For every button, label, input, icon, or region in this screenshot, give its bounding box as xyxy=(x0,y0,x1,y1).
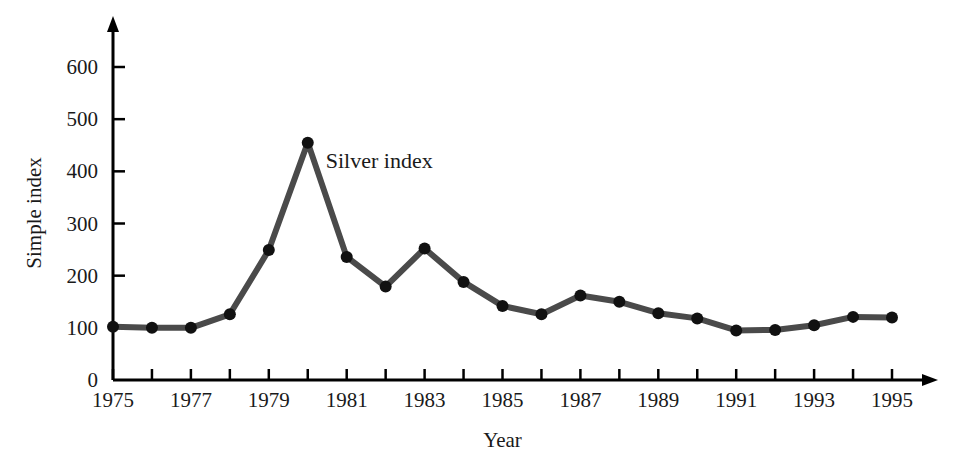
x-axis-title: Year xyxy=(483,428,522,453)
data-point-marker xyxy=(691,312,703,324)
data-point-marker xyxy=(419,243,431,255)
data-point-marker xyxy=(769,324,781,336)
data-point-markers xyxy=(107,137,898,337)
data-point-marker xyxy=(380,281,392,293)
data-point-marker xyxy=(808,319,820,331)
data-point-marker xyxy=(341,251,353,263)
series-annotation-label: Silver index xyxy=(326,148,433,174)
x-tick-label: 1993 xyxy=(793,390,835,411)
data-point-marker xyxy=(185,322,197,334)
data-point-marker xyxy=(497,300,509,312)
x-tick-label: 1979 xyxy=(248,390,290,411)
data-point-marker xyxy=(886,311,898,323)
x-tick-label: 1987 xyxy=(559,390,601,411)
x-tick-label: 1981 xyxy=(326,390,368,411)
x-tick-label: 1983 xyxy=(404,390,446,411)
x-tick-label: 1985 xyxy=(482,390,524,411)
y-tick-label: 500 xyxy=(30,109,98,130)
y-tick-label: 100 xyxy=(30,317,98,338)
x-tick-label: 1989 xyxy=(637,390,679,411)
y-tick-label: 0 xyxy=(30,370,98,391)
y-axis-title: Simple index xyxy=(22,157,47,268)
silver-index-line-chart: 0100200300400500600 19751977197919811983… xyxy=(0,0,954,462)
x-axis-arrowhead xyxy=(922,374,938,386)
x-tick-label: 1975 xyxy=(92,390,134,411)
data-point-marker xyxy=(652,307,664,319)
x-tick-label: 1991 xyxy=(715,390,757,411)
x-tick-label: 1995 xyxy=(871,390,913,411)
data-point-marker xyxy=(535,308,547,320)
data-point-marker xyxy=(613,296,625,308)
data-point-marker xyxy=(574,289,586,301)
y-tick-label: 600 xyxy=(30,57,98,78)
data-point-marker xyxy=(458,276,470,288)
data-point-marker xyxy=(107,321,119,333)
data-point-marker xyxy=(847,311,859,323)
x-tick-label: 1977 xyxy=(170,390,212,411)
data-point-marker xyxy=(224,308,236,320)
data-point-marker xyxy=(302,137,314,149)
y-axis-arrowhead xyxy=(107,16,119,32)
data-point-marker xyxy=(146,322,158,334)
data-point-marker xyxy=(263,244,275,256)
data-point-marker xyxy=(730,324,742,336)
